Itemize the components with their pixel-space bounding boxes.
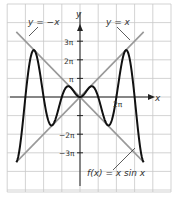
function-label: f(x) = x sin x	[87, 168, 146, 178]
line-pos-leader	[117, 27, 130, 40]
tick-label-pi: π	[69, 75, 74, 84]
tick-label-2pi: 2π	[64, 57, 74, 66]
chart-root: y x y = −x y = x 3π 2π π −2π −3π 2π f(x)…	[0, 0, 172, 199]
tick-label-x-2pi: 2π	[113, 100, 123, 109]
x-axis-label: x	[154, 93, 161, 103]
line-neg-label: y = −x	[27, 17, 60, 27]
tick-label-neg2pi: −2π	[59, 131, 75, 140]
x-axis-arrow-icon	[148, 94, 155, 100]
line-neg-leader	[29, 27, 38, 36]
grid	[7, 4, 171, 192]
line-pos-label: y = x	[105, 17, 131, 27]
tick-label-neg3pi: −3π	[59, 149, 75, 158]
plot-area: y x y = −x y = x 3π 2π π −2π −3π 2π f(x)…	[0, 0, 172, 199]
tick-label-3pi: 3π	[64, 38, 74, 47]
y-axis-label: y	[75, 9, 82, 19]
y-axis-arrow-icon	[77, 24, 83, 31]
